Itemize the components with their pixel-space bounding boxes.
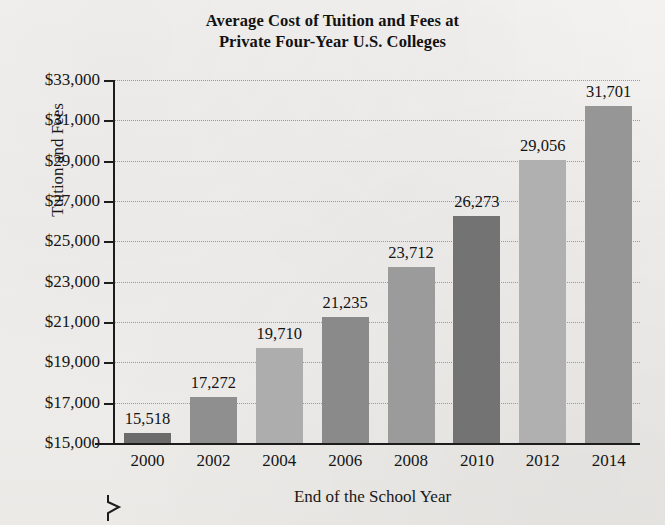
bar: 17,272: [190, 397, 237, 443]
bar: 21,235: [322, 317, 369, 443]
y-tick-label: $23,000: [45, 272, 100, 292]
y-tick-label: $33,000: [45, 70, 100, 90]
y-tick-label: $27,000: [45, 191, 100, 211]
gridline: [115, 120, 640, 121]
x-tick-label: 2000: [131, 451, 165, 471]
bar: 15,518: [124, 433, 171, 443]
y-tick-label: $17,000: [45, 393, 100, 413]
axis-break-icon: [106, 495, 122, 521]
y-tick-label: $25,000: [45, 231, 100, 251]
plot-area: $15,000$17,000$19,000$21,000$23,000$25,0…: [113, 80, 640, 443]
bar-value-label: 23,712: [388, 243, 433, 263]
chart-title: Average Cost of Tuition and Fees at Priv…: [0, 10, 665, 52]
chart-title-line-2: Private Four-Year U.S. Colleges: [0, 31, 665, 52]
bar: 31,701: [585, 106, 632, 443]
bar: 23,712: [388, 267, 435, 443]
x-tick-label: 2004: [262, 451, 296, 471]
x-tick-label: 2006: [328, 451, 362, 471]
y-tick-label: $21,000: [45, 312, 100, 332]
bar-value-label: 26,273: [454, 192, 499, 212]
bar-value-label: 21,235: [322, 293, 367, 313]
bar-value-label: 31,701: [586, 82, 631, 102]
x-axis-title: End of the School Year: [105, 487, 640, 507]
y-tick-label: $19,000: [45, 352, 100, 372]
bar-value-label: 19,710: [257, 324, 302, 344]
chart-title-line-1: Average Cost of Tuition and Fees at: [0, 10, 665, 31]
y-axis-line: [113, 80, 115, 443]
x-tick-label: 2010: [460, 451, 494, 471]
x-tick-label: 2002: [196, 451, 230, 471]
y-tick-label: $29,000: [45, 151, 100, 171]
bar-value-label: 29,056: [520, 136, 565, 156]
chart-page: Average Cost of Tuition and Fees at Priv…: [0, 0, 665, 525]
gridline: [115, 80, 640, 81]
x-tick-label: 2008: [394, 451, 428, 471]
bar: 19,710: [256, 348, 303, 443]
bar: 29,056: [519, 160, 566, 443]
bar-value-label: 15,518: [125, 409, 170, 429]
x-tick-label: 2014: [592, 451, 626, 471]
y-tick-label: $31,000: [45, 110, 100, 130]
x-axis-line: [95, 443, 640, 445]
bar: 26,273: [453, 216, 500, 443]
x-tick-label: 2012: [526, 451, 560, 471]
bar-value-label: 17,272: [191, 373, 236, 393]
y-tick-label: $15,000: [45, 433, 100, 453]
